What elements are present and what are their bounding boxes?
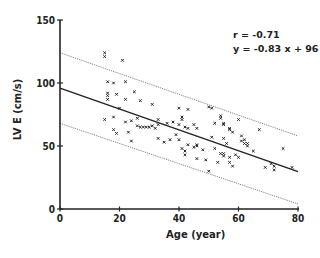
data-point-marker <box>145 126 148 129</box>
data-point-marker <box>157 137 160 140</box>
y-tick-label: 100 <box>36 78 55 89</box>
data-points <box>103 51 293 172</box>
data-point-marker <box>213 147 216 150</box>
data-point-marker <box>106 94 109 97</box>
data-point-marker <box>196 127 199 130</box>
data-point-marker <box>193 123 196 126</box>
data-point-marker <box>103 51 106 54</box>
data-point-marker <box>103 55 106 58</box>
data-point-marker <box>243 142 246 145</box>
data-point-marker <box>207 170 210 173</box>
data-point-marker <box>228 161 231 164</box>
data-point-marker <box>115 93 118 96</box>
data-point-marker <box>213 122 216 125</box>
data-point-marker <box>133 91 136 94</box>
data-point-marker <box>210 107 213 110</box>
data-point-marker <box>136 125 139 128</box>
data-point-marker <box>273 169 276 172</box>
data-point-marker <box>231 131 234 134</box>
data-point-marker <box>172 121 175 124</box>
data-point-marker <box>196 157 199 160</box>
data-point-marker <box>210 136 213 139</box>
y-axis-title: LV E (cm/s) <box>12 75 23 145</box>
data-point-marker <box>181 118 184 121</box>
data-point-marker <box>252 150 255 153</box>
data-point-marker <box>106 80 109 83</box>
data-point-marker <box>184 154 187 157</box>
data-point-marker <box>103 118 106 121</box>
data-point-marker <box>222 137 225 140</box>
data-point-marker <box>124 80 127 83</box>
data-point-marker <box>163 141 166 144</box>
data-point-marker <box>112 116 115 119</box>
data-point-marker <box>178 107 181 110</box>
prediction-band-upper <box>60 53 298 136</box>
data-point-marker <box>222 152 225 155</box>
y-tick-label: 150 <box>36 15 55 26</box>
data-point-marker <box>187 143 190 146</box>
data-point-marker <box>151 103 154 106</box>
data-point-marker <box>127 131 130 134</box>
x-tick-label: 0 <box>57 213 63 224</box>
data-point-marker <box>237 118 240 121</box>
data-point-marker <box>112 128 115 131</box>
data-point-marker <box>139 99 142 102</box>
data-point-marker <box>291 166 294 169</box>
data-point-marker <box>157 118 160 121</box>
x-tick-label: 20 <box>113 213 126 224</box>
x-axis-title: Age (year) <box>166 229 225 240</box>
data-point-marker <box>240 140 243 143</box>
data-point-marker <box>148 126 151 129</box>
data-point-marker <box>184 126 187 129</box>
data-point-marker <box>130 120 133 123</box>
regression-line-path <box>60 88 298 172</box>
data-point-marker <box>246 142 249 145</box>
data-point-marker <box>130 140 133 143</box>
data-point-marker <box>193 146 196 149</box>
data-point-marker <box>243 138 246 141</box>
data-point-marker <box>264 166 267 169</box>
prediction-band-lower <box>60 123 298 204</box>
data-point-marker <box>187 127 190 130</box>
data-point-marker <box>151 125 154 128</box>
data-point-marker <box>273 165 276 168</box>
data-point-marker <box>207 106 210 109</box>
data-point-marker <box>240 135 243 138</box>
data-point-marker <box>225 142 228 145</box>
data-point-marker <box>115 132 118 135</box>
data-point-marker <box>202 148 205 151</box>
data-point-marker <box>169 138 172 141</box>
data-point-marker <box>282 147 285 150</box>
data-point-marker <box>157 123 160 126</box>
data-point-marker <box>187 108 190 111</box>
data-point-marker <box>231 165 234 168</box>
regression-line <box>60 88 298 172</box>
data-point-marker <box>234 154 237 157</box>
data-point-marker <box>142 126 145 129</box>
data-point-marker <box>166 122 169 125</box>
data-point-marker <box>237 156 240 159</box>
data-point-marker <box>219 114 222 117</box>
data-point-marker <box>181 147 184 150</box>
prediction-bands <box>60 53 298 204</box>
data-point-marker <box>204 159 207 162</box>
data-point-marker <box>178 123 181 126</box>
x-tick-label: 40 <box>173 213 186 224</box>
x-tick-label: 60 <box>232 213 245 224</box>
data-point-marker <box>258 128 261 131</box>
y-tick-label: 50 <box>42 141 55 152</box>
x-tick-label: 80 <box>292 213 305 224</box>
y-axis-ticks: 050100150 <box>36 15 63 215</box>
data-point-marker <box>184 150 187 153</box>
data-point-marker <box>178 138 181 141</box>
data-point-marker <box>112 82 115 85</box>
data-point-marker <box>228 156 231 159</box>
data-point-marker <box>216 161 219 164</box>
data-point-marker <box>121 59 124 62</box>
data-point-marker <box>154 127 157 130</box>
data-point-marker <box>136 117 139 120</box>
regression-equation-annotation: y = -0.83 x + 96 <box>233 43 318 54</box>
data-point-marker <box>124 121 127 124</box>
data-point-marker <box>219 152 222 155</box>
data-point-marker <box>139 126 142 129</box>
